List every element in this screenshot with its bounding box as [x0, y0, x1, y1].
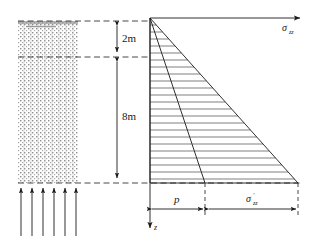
effective-stress-symbol: σ — [246, 193, 252, 204]
dimension-8m-label: 8m — [122, 110, 137, 122]
effective-stress-subscript: zz — [252, 200, 258, 206]
effective-stress-prime: ′ — [253, 192, 255, 198]
surcharge-label: p — [173, 193, 180, 205]
stress-axis-symbol: σ — [282, 22, 288, 33]
soil-block — [18, 21, 78, 183]
stress-distribution-diagram: 2m 8m σ zz z — [0, 0, 316, 245]
stress-axis-subscript: zz — [288, 29, 294, 35]
uplift-arrow-group — [21, 188, 76, 236]
dimension-2m: 2m — [117, 26, 137, 52]
depth-axis: z — [150, 18, 158, 232]
dimension-2m-label: 2m — [122, 32, 137, 44]
bottom-tick-extensions — [205, 183, 298, 215]
stress-hatching — [150, 25, 294, 179]
stress-axis: σ zz — [150, 18, 300, 35]
depth-axis-symbol: z — [153, 223, 158, 232]
dimension-p: p — [152, 193, 203, 209]
dimension-effective-stress: σ zz ′ — [209, 192, 296, 209]
diagram-canvas: 2m 8m σ zz z — [0, 0, 316, 245]
dimension-8m: 8m — [117, 62, 137, 178]
stress-distribution-region — [150, 18, 298, 183]
